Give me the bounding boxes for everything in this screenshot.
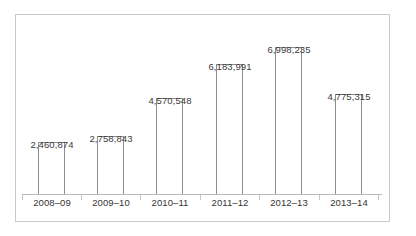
plot-area: 2,460,874 2,758,843 4,570,548 6,183,991 … xyxy=(16,15,389,221)
bar-value-label: 4,775,315 xyxy=(307,91,391,191)
bars-layer: 2,460,874 2,758,843 4,570,548 6,183,991 … xyxy=(16,15,389,221)
chart-container: 2,460,874 2,758,843 4,570,548 6,183,991 … xyxy=(0,0,416,236)
x-axis-label-2013-14: 2013–14 xyxy=(307,197,391,208)
